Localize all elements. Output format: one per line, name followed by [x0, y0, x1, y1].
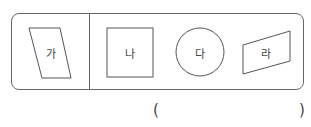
answer-open-paren: ( — [153, 101, 159, 119]
answer-close-paren: ) — [299, 101, 305, 119]
figure-label-na: 나 — [125, 45, 135, 61]
figure-label-da: 다 — [195, 45, 205, 61]
figure-label-ra: 라 — [261, 45, 271, 61]
figure-label-ga: 가 — [46, 45, 56, 61]
answer-blank[interactable] — [172, 101, 292, 117]
